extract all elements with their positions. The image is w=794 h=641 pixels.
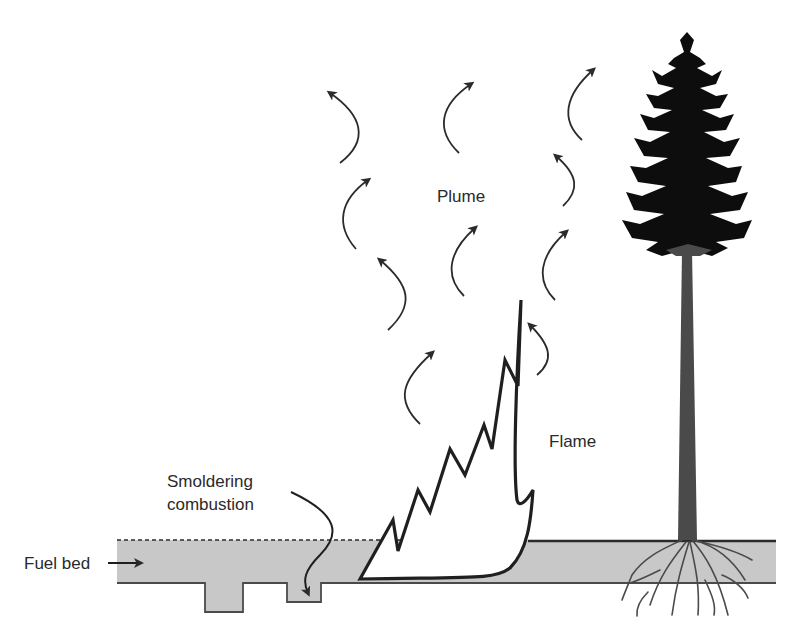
plume-label: Plume [437,186,485,207]
smoldering-label-line1: Smoldering [167,471,253,492]
fuel-bed-label: Fuel bed [24,553,90,574]
plume-arrow [444,84,471,153]
flame-label: Flame [549,431,596,452]
fire-diagram [0,0,794,641]
smoldering-label-line2: combustion [167,494,254,515]
plume-arrow [405,353,432,424]
plume-arrow [543,232,566,300]
plume-arrow [343,180,368,249]
plume-arrows [330,70,593,424]
plume-arrow [330,93,359,163]
plume-arrow [556,156,574,206]
plume-arrow [380,260,406,330]
tree-crown [622,32,752,256]
plume-arrow [530,325,548,375]
flame [360,300,533,579]
plume-arrow [568,70,593,140]
tree-trunk [678,250,697,540]
plume-arrow [452,228,475,296]
